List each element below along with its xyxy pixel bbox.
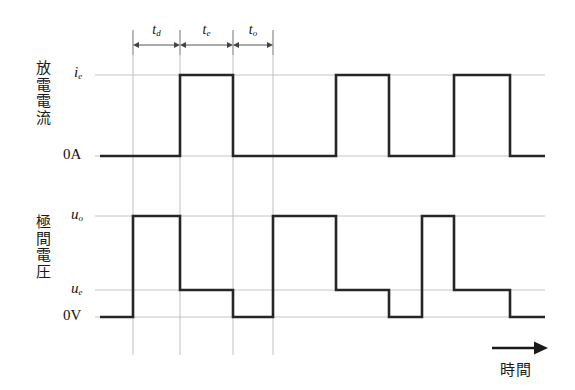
current-axis-title: 放電電流 <box>34 60 49 156</box>
voltage-zero-level-label: 0V <box>63 307 81 324</box>
level-reference-lines <box>95 75 545 317</box>
voltage-discharge-symbol: u <box>71 280 79 296</box>
current-zero-level-label: 0A <box>63 146 81 163</box>
voltage-open-symbol: u <box>71 206 79 222</box>
waveform-canvas <box>0 0 575 390</box>
voltage-open-subscript: o <box>79 213 84 223</box>
current-high-level-label: ie <box>74 64 82 81</box>
waveform-figure: 放電電流 極間電圧 ie 0A uo ue 0V td te to 時間 <box>0 0 575 390</box>
timing-to-subscript: o <box>253 28 258 38</box>
time-axis-label: 時間 <box>500 358 532 379</box>
voltage-axis-title: 極間電圧 <box>34 214 49 310</box>
timing-td-subscript: d <box>156 28 161 38</box>
time-axis-arrow-icon <box>492 342 548 355</box>
voltage-open-level-label: uo <box>71 206 83 223</box>
vertical-guide-lines <box>133 30 273 355</box>
current-waveform <box>100 75 545 156</box>
timing-te-subscript: e <box>206 28 210 38</box>
timing-label-te: te <box>180 22 233 38</box>
timing-label-to: to <box>233 22 273 38</box>
timing-label-td: td <box>133 22 180 38</box>
voltage-discharge-subscript: e <box>79 287 83 297</box>
current-high-subscript: e <box>78 71 82 81</box>
voltage-discharge-level-label: ue <box>71 280 83 297</box>
voltage-waveform <box>100 216 545 317</box>
